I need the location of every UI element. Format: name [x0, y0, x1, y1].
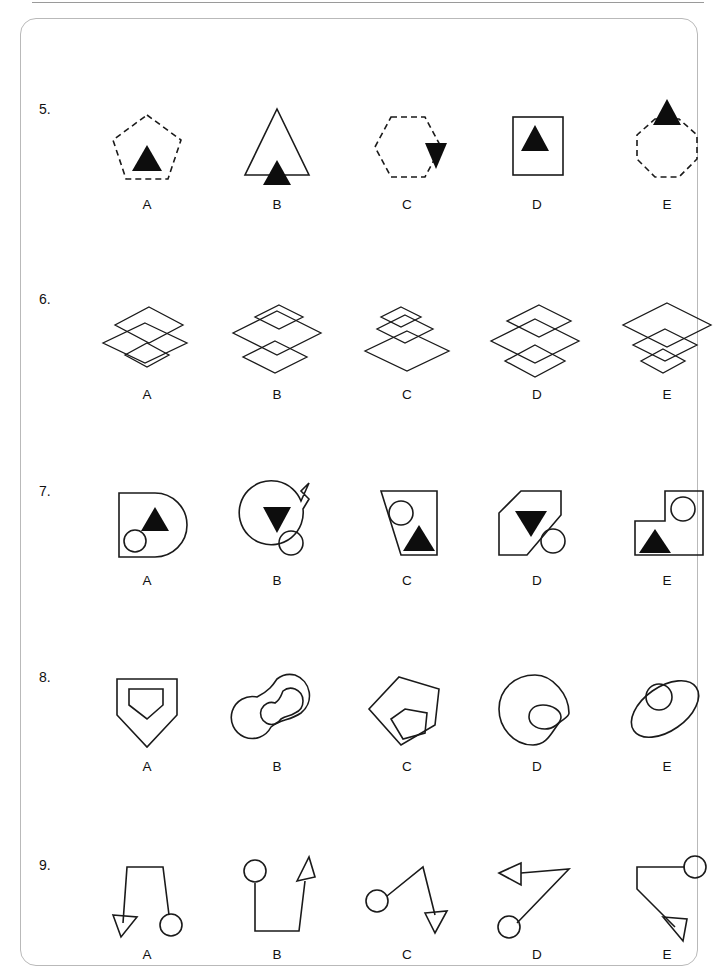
shape-8-C: [347, 657, 467, 757]
option-label: B: [217, 573, 337, 588]
shape-6-D: [477, 285, 597, 385]
option-cell-9-A[interactable]: A: [87, 845, 207, 962]
option-label: E: [607, 573, 719, 588]
option-label: A: [87, 387, 207, 402]
shape-9-C: [347, 845, 467, 945]
option-label: C: [347, 197, 467, 212]
option-label: B: [217, 759, 337, 774]
shape-5-D: [477, 95, 597, 195]
option-cell-5-E[interactable]: E: [607, 95, 719, 212]
option-cell-6-D[interactable]: D: [477, 285, 597, 402]
option-cell-8-D[interactable]: D: [477, 657, 597, 774]
option-label: C: [347, 759, 467, 774]
shape-6-C: [347, 285, 467, 385]
option-label: E: [607, 759, 719, 774]
option-cell-5-A[interactable]: A: [87, 95, 207, 212]
row-number-9: 9.: [39, 857, 51, 873]
option-label: A: [87, 573, 207, 588]
option-label: D: [477, 387, 597, 402]
option-cell-9-B[interactable]: B: [217, 845, 337, 962]
shape-5-E: [607, 95, 719, 195]
option-label: C: [347, 387, 467, 402]
option-label: E: [607, 387, 719, 402]
option-cell-9-D[interactable]: D: [477, 845, 597, 962]
option-label: C: [347, 573, 467, 588]
option-cell-7-A[interactable]: A: [87, 471, 207, 588]
option-label: C: [347, 947, 467, 962]
shape-8-A: [87, 657, 207, 757]
option-cell-5-B[interactable]: B: [217, 95, 337, 212]
shape-8-D: [477, 657, 597, 757]
shape-8-B: [217, 657, 337, 757]
option-label: D: [477, 947, 597, 962]
option-label: A: [87, 197, 207, 212]
row-number-5: 5.: [39, 101, 51, 117]
option-cell-7-B[interactable]: B: [217, 471, 337, 588]
option-cell-9-E[interactable]: E: [607, 845, 719, 962]
option-cell-7-E[interactable]: E: [607, 471, 719, 588]
shape-9-A: [87, 845, 207, 945]
option-label: B: [217, 387, 337, 402]
option-cell-6-C[interactable]: C: [347, 285, 467, 402]
option-label: E: [607, 197, 719, 212]
shape-9-B: [217, 845, 337, 945]
worksheet-frame: 5. A B C: [20, 18, 698, 966]
option-cell-6-A[interactable]: A: [87, 285, 207, 402]
shape-5-C: [347, 95, 467, 195]
shape-6-B: [217, 285, 337, 385]
shape-7-D: [477, 471, 597, 571]
shape-6-E: [607, 285, 719, 385]
option-cell-6-B[interactable]: B: [217, 285, 337, 402]
option-cell-5-C[interactable]: C: [347, 95, 467, 212]
option-label: D: [477, 197, 597, 212]
row-number-6: 6.: [39, 291, 51, 307]
shape-9-E: [607, 845, 719, 945]
option-label: E: [607, 947, 719, 962]
option-cell-7-D[interactable]: D: [477, 471, 597, 588]
shape-7-B: [217, 471, 337, 571]
shape-7-A: [87, 471, 207, 571]
row-number-7: 7.: [39, 483, 51, 499]
option-label: A: [87, 759, 207, 774]
option-cell-8-A[interactable]: A: [87, 657, 207, 774]
option-cell-8-C[interactable]: C: [347, 657, 467, 774]
shape-6-A: [87, 285, 207, 385]
option-label: A: [87, 947, 207, 962]
option-cell-7-C[interactable]: C: [347, 471, 467, 588]
shape-8-E: [607, 657, 719, 757]
shape-5-B: [217, 95, 337, 195]
option-cell-9-C[interactable]: C: [347, 845, 467, 962]
top-divider-rule: [32, 2, 704, 3]
shape-7-E: [607, 471, 719, 571]
option-cell-6-E[interactable]: E: [607, 285, 719, 402]
option-label: B: [217, 947, 337, 962]
option-cell-8-E[interactable]: E: [607, 657, 719, 774]
option-cell-5-D[interactable]: D: [477, 95, 597, 212]
option-label: D: [477, 573, 597, 588]
shape-5-A: [87, 95, 207, 195]
option-label: D: [477, 759, 597, 774]
shape-9-D: [477, 845, 597, 945]
row-number-8: 8.: [39, 669, 51, 685]
option-cell-8-B[interactable]: B: [217, 657, 337, 774]
option-label: B: [217, 197, 337, 212]
shape-7-C: [347, 471, 467, 571]
